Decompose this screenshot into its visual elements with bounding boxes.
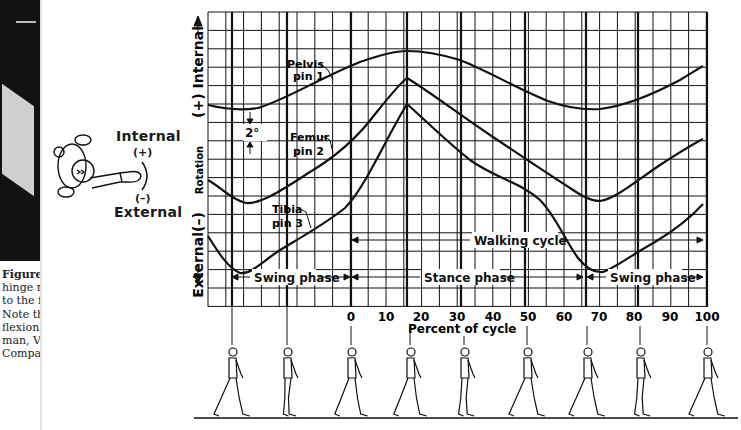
stance-phase-label: Stance phase [424,271,515,285]
x-axis-title: Percent of cycle [408,322,517,336]
x-tick: 60 [556,310,573,324]
femur-label-2: pin 2 [293,145,324,158]
x-tick: 10 [378,310,395,324]
y-axis-title: Rotation [194,146,205,194]
tibia-label-1: Tibia [272,203,302,216]
phase-bars: Swing phase Stance phase Swing phase [232,269,703,285]
x-axis-ticks: 0 10 20 30 40 50 60 70 80 90 100 [347,310,720,324]
x-tick: 0 [347,310,355,324]
swing-phase-label-2: Swing phase [610,271,696,285]
scale-2deg: 2° [243,112,267,154]
x-tick: 70 [591,310,608,324]
walking-person-icon [569,348,605,416]
x-tick: 90 [662,310,679,324]
curve-labels: Pelvis pin 1 Femur pin 2 Tibia pin 3 [272,58,333,230]
y-axis-internal: (+) Internal [190,26,206,118]
walking-person-icon [459,348,475,416]
pelvis-label-2: pin 1 [293,70,324,83]
femur-label-1: Femur [290,131,330,144]
walking-figures [214,348,725,416]
walking-person-icon [509,348,545,416]
walking-person-icon [335,348,368,416]
walking-cycle-label: Walking cycle [474,234,567,248]
walking-person-icon [635,348,651,416]
walking-person-icon [689,348,725,416]
swing-phase-label-1: Swing phase [254,271,340,285]
y-axis-labels: Rotation (+) Internal External(–) [190,16,206,298]
chart-grid [208,12,707,307]
scale-label: 2° [245,126,259,140]
walking-person-icon [214,348,250,416]
x-tick: 100 [694,310,719,324]
pelvis-curve [208,51,703,109]
walking-person-icon [394,348,427,416]
rotation-chart: Rotation (+) Internal External(–) Pelvis… [0,0,741,430]
tibia-label-2: pin 3 [272,217,303,230]
x-tick: 50 [520,310,537,324]
x-tick: 80 [626,310,643,324]
walking-person-icon [283,348,298,416]
